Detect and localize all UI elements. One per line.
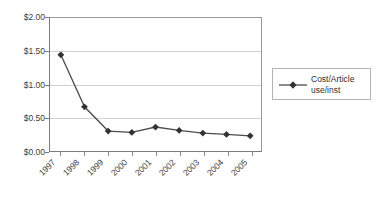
line-chart: $2.00 $1.50 $1.00 $0.50 $0.00 1997 1998 … (0, 0, 379, 198)
y-axis-label-3: $0.50 (1, 114, 45, 123)
gridline (50, 85, 261, 86)
x-axis-tick (132, 152, 133, 156)
x-axis-tick (60, 152, 61, 156)
x-axis-tick (84, 152, 85, 156)
y-axis-tick (45, 152, 49, 153)
y-axis-label-2: $1.00 (1, 81, 45, 90)
gridline (50, 51, 261, 52)
legend-label: Cost/Article use/inst (311, 74, 369, 96)
y-axis-label-0: $2.00 (1, 13, 45, 22)
x-axis-label-2002: 2002 (158, 158, 178, 178)
x-axis-label-2004: 2004 (206, 158, 226, 178)
legend: Cost/Article use/inst (272, 68, 371, 100)
plot-area (49, 17, 262, 152)
x-axis-tick (204, 152, 205, 156)
x-axis-label-1997: 1997 (38, 158, 58, 178)
legend-label-line2: use/inst (311, 85, 369, 96)
y-axis-label-1: $1.50 (1, 47, 45, 56)
x-axis-tick (228, 152, 229, 156)
x-axis-tick (180, 152, 181, 156)
legend-marker (278, 76, 308, 86)
legend-label-line1: Cost/Article (311, 74, 369, 85)
x-axis-label-2000: 2000 (110, 158, 130, 178)
x-axis-label-2001: 2001 (134, 158, 154, 178)
gridline (50, 118, 261, 119)
x-axis-label-2005: 2005 (230, 158, 250, 178)
x-axis-tick (108, 152, 109, 156)
x-axis-tick (156, 152, 157, 156)
x-axis-tick (252, 152, 253, 156)
x-axis-label-1999: 1999 (86, 158, 106, 178)
x-axis-label-2003: 2003 (182, 158, 202, 178)
x-axis-label-1998: 1998 (62, 158, 82, 178)
y-axis-label-4: $0.00 (1, 148, 45, 157)
